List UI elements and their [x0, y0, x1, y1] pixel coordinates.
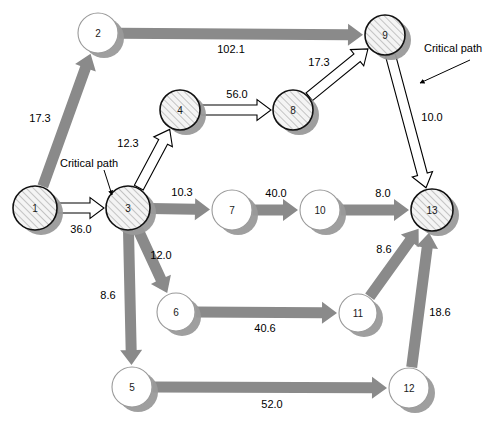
critical-path-annotation-label: Critical path — [60, 157, 118, 169]
edge-weight-n6-to-n11: 40.6 — [254, 322, 275, 334]
edge-weight-n3-to-n5: 8.6 — [100, 289, 115, 301]
edge-arrow-n10-to-n13 — [341, 199, 409, 221]
node-label: 9 — [382, 30, 388, 41]
node-label: 3 — [125, 203, 131, 214]
edge-weight-n10-to-n13: 8.0 — [375, 187, 390, 199]
edge-weight-n7-to-n10: 40.0 — [265, 187, 286, 199]
node-label: 2 — [95, 28, 101, 39]
edge-weight-n12-to-n13: 18.6 — [429, 306, 450, 318]
annotation-leader-line — [104, 170, 112, 195]
node-2[interactable]: 2 — [78, 13, 124, 58]
node-11[interactable]: 11 — [339, 294, 383, 337]
edge-weight-n11-to-n13: 8.6 — [376, 243, 391, 255]
annotation-leader-line — [420, 60, 470, 83]
edge-arrow-n3-to-n4 — [134, 129, 172, 190]
edge-arrow-n1-to-n3 — [58, 198, 104, 219]
network-diagram: 12345678910111213 17.336.0102.112.310.31… — [0, 0, 483, 423]
node-label: 11 — [353, 308, 364, 319]
edge-weight-n3-to-n4: 12.3 — [117, 137, 138, 149]
edge-weight-n2-to-n9: 102.1 — [217, 43, 245, 55]
edge-arrow-n5-to-n12 — [153, 377, 387, 399]
edge-arrow-n7-to-n10 — [253, 199, 298, 221]
edge-weight-n3-to-n6: 12.0 — [150, 249, 171, 261]
node-12[interactable]: 12 — [389, 368, 435, 413]
node-1[interactable]: 1 — [13, 186, 63, 235]
node-label: 7 — [229, 205, 235, 216]
edge-weight-n4-to-n8: 56.0 — [226, 88, 247, 100]
edge-weight-n1-to-n3: 36.0 — [70, 223, 91, 235]
node-6[interactable]: 6 — [157, 293, 201, 336]
node-4[interactable]: 4 — [160, 90, 206, 135]
edge-weight-n8-to-n9: 17.3 — [308, 56, 329, 68]
node-label: 8 — [290, 105, 296, 116]
node-5[interactable]: 5 — [112, 367, 158, 412]
edge-arrow-n6-to-n11 — [196, 302, 337, 324]
node-3[interactable]: 3 — [106, 186, 156, 235]
node-label: 12 — [403, 383, 415, 394]
critical-path-annotation-label: Critical path — [424, 42, 482, 54]
node-10[interactable]: 10 — [300, 190, 346, 235]
edge-arrow-n11-to-n13 — [365, 229, 419, 300]
diagram-canvas: 12345678910111213 17.336.0102.112.310.31… — [0, 0, 483, 423]
edge-weight-n9-to-n13: 10.0 — [421, 111, 442, 123]
node-label: 4 — [177, 105, 183, 116]
edge-arrow-n3-to-n5 — [120, 231, 142, 365]
node-9[interactable]: 9 — [365, 15, 411, 60]
edge-weight-n3-to-n7: 10.3 — [171, 186, 192, 198]
edge-arrow-n12-to-n13 — [406, 233, 438, 368]
node-label: 10 — [314, 205, 326, 216]
node-label: 1 — [32, 203, 38, 214]
node-label: 6 — [173, 307, 179, 318]
edge-arrow-n3-to-n7 — [151, 198, 210, 220]
node-7[interactable]: 7 — [212, 190, 258, 235]
edge-weight-n1-to-n2: 17.3 — [29, 112, 50, 124]
node-label: 13 — [426, 205, 438, 216]
edge-weight-n5-to-n12: 52.0 — [261, 398, 282, 410]
node-label: 5 — [129, 382, 135, 393]
edge-arrow-n4-to-n8 — [201, 100, 271, 121]
